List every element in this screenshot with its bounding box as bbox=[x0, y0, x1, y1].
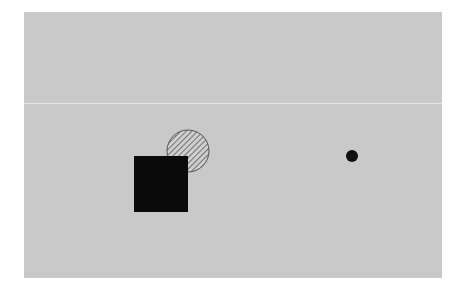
diagram-canvas bbox=[0, 0, 463, 293]
black-dot bbox=[346, 150, 358, 162]
black-square bbox=[134, 156, 188, 212]
shapes-layer bbox=[0, 0, 463, 293]
